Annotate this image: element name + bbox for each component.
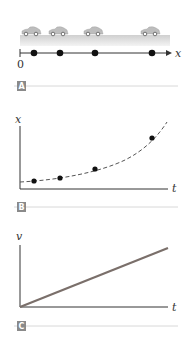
position-dot: [149, 50, 156, 57]
panel-a: x 0 A: [14, 27, 182, 91]
car-icon: [49, 27, 68, 36]
position-dot: [57, 50, 64, 57]
panel-c: v t C: [14, 230, 178, 331]
dashed-curve: [20, 122, 167, 182]
axis-label-y: v: [16, 230, 23, 243]
axis-label-x: x: [175, 47, 182, 60]
panel-label: B: [19, 203, 25, 212]
panel-b: x t B: [14, 113, 178, 212]
road: [20, 35, 170, 46]
velocity-line: [20, 248, 168, 307]
arrow-icon: [166, 50, 172, 56]
position-dot: [92, 50, 99, 57]
data-point: [31, 178, 36, 183]
origin-label: 0: [17, 58, 24, 71]
data-point: [92, 166, 97, 171]
position-dot: [31, 50, 38, 57]
axis-label-y: x: [15, 113, 22, 126]
figure: x 0 A x t B v t C: [0, 0, 190, 347]
data-point: [149, 135, 154, 140]
data-point: [57, 175, 62, 180]
axis-label-x: t: [172, 182, 177, 195]
panel-label: A: [19, 82, 26, 91]
panel-label: C: [19, 322, 25, 331]
car-icon: [22, 27, 41, 36]
car-icon: [84, 27, 103, 36]
axis-label-x: t: [172, 301, 177, 314]
car-icon: [141, 27, 160, 36]
